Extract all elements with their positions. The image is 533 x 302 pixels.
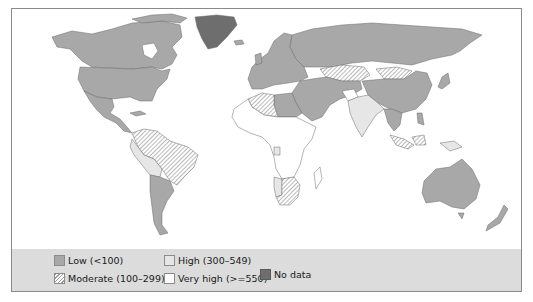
legend-label-no-data: No data: [274, 269, 311, 280]
swatch-no-data-icon: [260, 269, 271, 280]
legend-item-low: Low (<100): [54, 255, 123, 266]
region-canada-alaska: [52, 21, 182, 69]
legend-label-low: Low (<100): [68, 255, 123, 266]
region-indonesia: [390, 135, 426, 149]
legend-item-high: High (300–549): [164, 255, 251, 266]
region-namibia: [274, 177, 282, 197]
swatch-very-high-icon: [164, 273, 175, 284]
legend-label-moderate: Moderate (100–299): [68, 273, 165, 284]
swatch-low-icon: [54, 255, 65, 266]
legend-label-high: High (300–549): [178, 255, 251, 266]
world-map: [12, 9, 521, 249]
legend-item-very-high: Very high (>=550): [164, 273, 267, 284]
region-australia: [422, 159, 480, 209]
legend-label-very-high: Very high (>=550): [178, 273, 267, 284]
legend-item-no-data: No data: [260, 269, 311, 280]
region-southeast-asia: [384, 109, 402, 131]
region-argentina-chile: [150, 175, 174, 235]
region-new-zealand: [486, 205, 508, 231]
map-legend: Low (<100) High (300–549) Moderate (100–…: [12, 249, 521, 291]
swatch-high-icon: [164, 255, 175, 266]
region-russia: [290, 23, 482, 67]
map-figure: Low (<100) High (300–549) Moderate (100–…: [11, 8, 522, 292]
region-greenland: [195, 15, 237, 49]
swatch-moderate-hatched-icon: [54, 273, 65, 284]
legend-item-moderate: Moderate (100–299): [54, 273, 165, 284]
